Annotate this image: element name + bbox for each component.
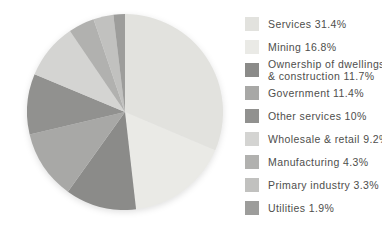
- legend-swatch: [245, 201, 259, 215]
- legend-swatch: [245, 40, 259, 54]
- legend-label: Government 11.4%: [268, 87, 364, 99]
- legend-swatch: [245, 86, 259, 100]
- legend-label: Primary industry 3.3%: [268, 179, 379, 191]
- legend-swatch: [245, 132, 259, 146]
- legend-item-other-services: Other services 10%: [245, 109, 382, 123]
- legend-item-services: Services 31.4%: [245, 17, 382, 31]
- legend-label: Manufacturing 4.3%: [268, 156, 369, 168]
- chart-legend: Services 31.4%Mining 16.8%Ownership of d…: [245, 17, 382, 215]
- legend-swatch: [245, 178, 259, 192]
- legend-item-mining: Mining 16.8%: [245, 40, 382, 54]
- legend-item-government: Government 11.4%: [245, 86, 382, 100]
- legend-label: Other services 10%: [268, 110, 367, 122]
- pie-chart-figure: Services 31.4%Mining 16.8%Ownership of d…: [0, 0, 382, 228]
- legend-swatch: [245, 63, 259, 77]
- legend-item-ownership-of-dwellings-construction: Ownership of dwellings & construction 11…: [245, 63, 382, 77]
- legend-item-wholesale-retail: Wholesale & retail 9.2%: [245, 132, 382, 146]
- legend-label: Wholesale & retail 9.2%: [268, 133, 382, 145]
- legend-label: Utilities 1.9%: [268, 202, 334, 214]
- legend-swatch: [245, 17, 259, 31]
- legend-item-primary-industry: Primary industry 3.3%: [245, 178, 382, 192]
- legend-label: Mining 16.8%: [268, 41, 336, 53]
- legend-item-utilities: Utilities 1.9%: [245, 201, 382, 215]
- legend-swatch: [245, 155, 259, 169]
- legend-item-manufacturing: Manufacturing 4.3%: [245, 155, 382, 169]
- legend-label: Ownership of dwellings & construction 11…: [268, 58, 382, 82]
- legend-label: Services 31.4%: [268, 18, 347, 30]
- legend-swatch: [245, 109, 259, 123]
